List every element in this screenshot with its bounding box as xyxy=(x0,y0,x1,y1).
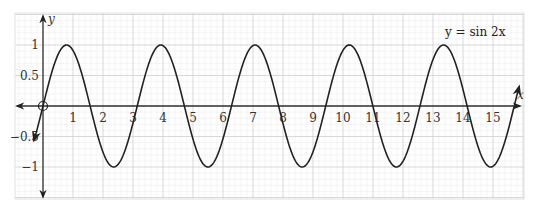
y-axis-label: y xyxy=(47,12,55,26)
x-tick-label: 9 xyxy=(309,111,317,125)
x-tick-label: 4 xyxy=(159,111,167,125)
x-tick-label: 15 xyxy=(485,111,500,125)
x-tick-label: 2 xyxy=(99,111,107,125)
y-tick-label: 1 xyxy=(31,38,39,52)
x-tick-label: 10 xyxy=(335,111,350,125)
x-tick-label: 7 xyxy=(249,111,257,125)
x-tick-label: 13 xyxy=(425,111,440,125)
x-tick-label: 6 xyxy=(219,111,227,125)
x-tick-label: 5 xyxy=(189,111,197,125)
x-tick-label: 1 xyxy=(69,111,77,125)
sine-chart: 123456789101112131415 10.5−0.5−1 x y y =… xyxy=(0,0,534,207)
equation-label: y = sin 2x xyxy=(444,25,506,39)
x-tick-label: 12 xyxy=(395,111,410,125)
x-tick-label: 11 xyxy=(365,111,380,125)
y-tick-label: −1 xyxy=(21,160,39,174)
y-tick-label: 0.5 xyxy=(20,69,39,83)
